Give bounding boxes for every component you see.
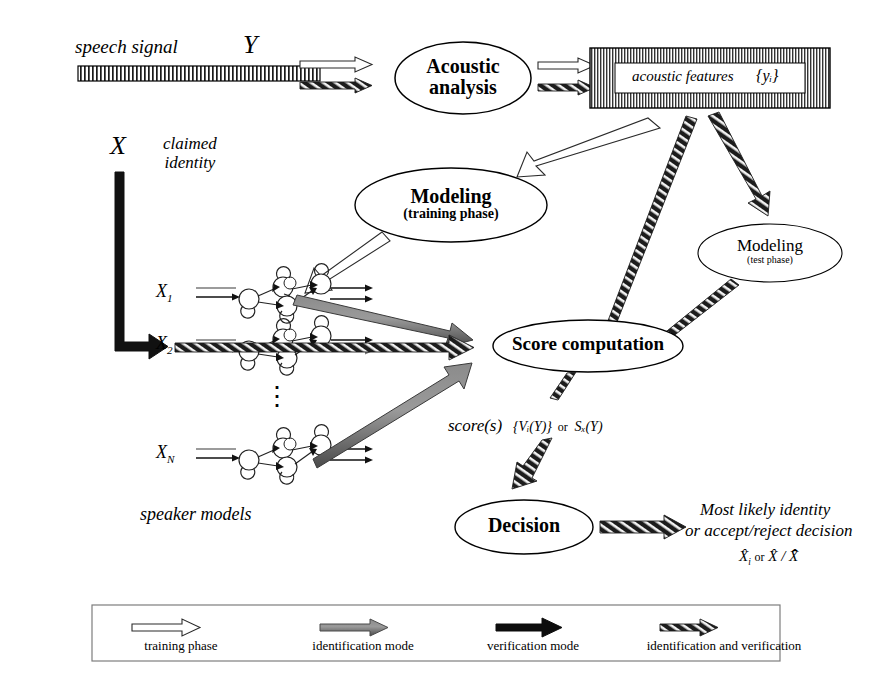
node-decision[interactable] (455, 500, 593, 554)
speaker-models-caption: speaker models (140, 504, 251, 524)
speaker-model-label-n: XN (156, 442, 174, 465)
node-score-computation[interactable] (493, 320, 683, 372)
speaker-model-1-symbol: X (156, 281, 167, 301)
claimed-identity-line1: claimed (163, 134, 217, 153)
node-modeling-test[interactable] (698, 224, 842, 282)
speaker-model-2-symbol: X (156, 333, 167, 353)
legend-label-verification-mode: verification mode (448, 638, 618, 654)
speaker-model-n-index: N (167, 453, 174, 465)
arrow-features-to-modeling-training (517, 118, 660, 177)
legend-label-training-phase: training phase (96, 638, 266, 654)
legend-label-identification-mode: identification mode (268, 638, 458, 654)
score-output-prefix: score(s) (448, 416, 502, 435)
legend-label-identification-and-verification: identification and verification (604, 638, 844, 654)
node-acoustic-analysis[interactable] (395, 42, 531, 114)
speaker-model-label-2: X2 (156, 333, 173, 356)
arrow-analysis-to-features-training (538, 58, 595, 73)
claimed-identity-label: claimed identity (163, 134, 217, 172)
decision-output-xhat-i-index: i (748, 557, 751, 567)
arrow-claimed-identity-verification (115, 172, 168, 359)
acoustic-features-symbol: {yᵢ} (756, 67, 778, 85)
speaker-model-1-index: 1 (167, 292, 173, 304)
arrow-analysis-to-features-idver (538, 80, 595, 95)
speaker-model-n-symbol: X (156, 442, 167, 462)
arrow-features-to-modeling-test (708, 112, 770, 216)
speech-signal-symbol: Y (243, 30, 257, 59)
claimed-identity-symbol: X (110, 131, 126, 160)
score-output-expr-a: {Vᵢ(Y)} (513, 419, 552, 434)
score-output-expression: score(s) {Vᵢ(Y)} or Sₓ(Y) (448, 416, 603, 435)
decision-output-line1: Most likely identity (700, 500, 830, 519)
decision-output-xhat-i: X̂ (739, 548, 748, 564)
decision-output-line2: or accept/reject decision (685, 521, 852, 540)
speaker-models-ellipsis: ⋮ (264, 382, 290, 411)
arrow-features-to-score (598, 116, 697, 348)
speech-signal-label: speech signal (75, 36, 178, 57)
node-modeling-training[interactable] (355, 168, 547, 242)
score-output-expr-b: Sₓ(Y) (574, 419, 602, 434)
claimed-identity-line2: identity (163, 153, 217, 172)
decision-output-joiner: or (755, 550, 765, 564)
speaker-model-graph-n (196, 425, 373, 484)
diagram-canvas (0, 0, 885, 699)
decision-output-line3: X̂i or X̂ / X̄̂ (739, 548, 798, 567)
acoustic-features-label: acoustic features (632, 68, 734, 85)
arrow-decision-to-output (600, 515, 686, 539)
score-output-joiner: or (558, 420, 568, 434)
decision-output-xhat-alt: X̂ / X̄̂ (768, 548, 798, 564)
speech-signal-waveform (78, 66, 320, 81)
speaker-model-2-index: 2 (167, 344, 173, 356)
speaker-model-label-1: X1 (156, 281, 173, 304)
